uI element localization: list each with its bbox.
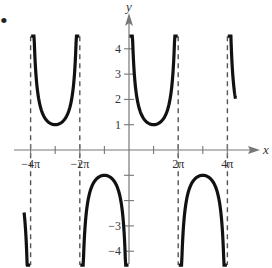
csc-branch (179, 175, 227, 265)
y-axis-label: y (124, 0, 132, 14)
problem-marker: • (0, 8, 8, 33)
y-tick-label: −3 (108, 219, 121, 233)
x-tick-label: −4π (21, 157, 40, 171)
csc-graph: −4π−2π2π4π4321−3−4xy • (0, 0, 272, 268)
x-tick-label: 4π (221, 157, 233, 171)
csc-branch (228, 36, 236, 99)
y-tick-label: 1 (115, 118, 121, 132)
y-tick-label: −4 (108, 244, 121, 258)
y-tick-label: 3 (115, 67, 121, 81)
x-tick-label: 2π (172, 157, 184, 171)
x-tick-label: −2π (70, 157, 89, 171)
csc-branch (129, 36, 177, 125)
x-axis-label: x (262, 142, 269, 157)
csc-branch (80, 175, 128, 265)
csc-branch (31, 36, 79, 125)
y-tick-label: 2 (115, 92, 121, 106)
y-tick-label: 4 (115, 42, 121, 56)
function-curves (24, 36, 235, 265)
csc-branch (24, 212, 30, 265)
